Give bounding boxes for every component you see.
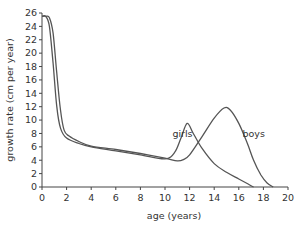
x-tick-label: 4 xyxy=(88,192,94,203)
x-axis-label: age (years) xyxy=(147,210,201,221)
y-tick-label: 12 xyxy=(25,101,37,112)
y-tick-label: 6 xyxy=(31,141,37,152)
x-tick-label: 16 xyxy=(233,192,245,203)
x-tick-label: 20 xyxy=(282,192,294,203)
series-curves xyxy=(42,16,273,187)
x-tick-label: 10 xyxy=(159,192,171,203)
x-tick-label: 0 xyxy=(39,192,45,203)
series-labels: girlsboys xyxy=(172,128,265,139)
x-tick-label: 8 xyxy=(137,192,143,203)
x-tick-label: 2 xyxy=(64,192,70,203)
x-tick-label: 14 xyxy=(208,192,220,203)
y-tick-label: 4 xyxy=(31,155,37,166)
girls-curve xyxy=(42,16,254,187)
y-tick-label: 16 xyxy=(25,74,37,85)
y-tick-label: 8 xyxy=(31,128,37,139)
boys-label: boys xyxy=(242,128,264,139)
y-tick-label: 10 xyxy=(25,114,37,125)
y-tick-label: 24 xyxy=(25,21,37,32)
y-axis-label: growth rate (cm per year) xyxy=(4,38,15,161)
y-tick-label: 14 xyxy=(25,88,37,99)
y-tick-label: 2 xyxy=(31,168,37,179)
x-tick-label: 12 xyxy=(184,192,196,203)
y-tick-label: 0 xyxy=(31,181,37,192)
x-tick-label: 6 xyxy=(113,192,119,203)
y-tick-label: 22 xyxy=(25,34,37,45)
boys-curve xyxy=(42,16,273,187)
y-tick-label: 18 xyxy=(25,61,37,72)
x-axis: 02468101214161820 xyxy=(39,187,294,203)
y-axis: 02468101214161820222426 xyxy=(25,7,42,192)
y-tick-label: 26 xyxy=(25,7,37,18)
growth-rate-chart: 02468101214161820222426 0246810121416182… xyxy=(0,0,301,233)
y-tick-label: 20 xyxy=(25,47,37,58)
x-tick-label: 18 xyxy=(257,192,269,203)
girls-label: girls xyxy=(172,128,192,139)
